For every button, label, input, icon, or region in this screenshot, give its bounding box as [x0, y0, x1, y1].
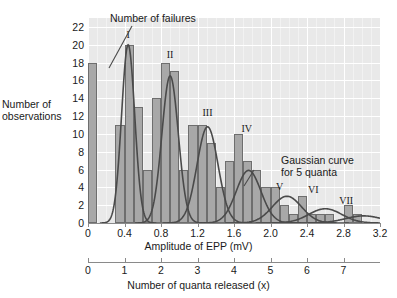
- x-tick-label: 3.2: [373, 228, 388, 239]
- histogram-bar: [216, 187, 225, 223]
- x-axis-title: Amplitude of EPP (mV): [0, 240, 397, 252]
- secondary-x-tick-label: 6: [304, 265, 310, 276]
- histogram-bar: [298, 196, 307, 223]
- histogram-bar: [225, 161, 234, 223]
- x-tick-label: 2.0: [263, 228, 278, 239]
- gaussian-annotation: Gaussian curve for 5 quanta: [281, 154, 354, 178]
- y-tick-label: 12: [56, 111, 84, 121]
- peak-label-I: I: [126, 30, 129, 40]
- histogram-bar: [207, 143, 216, 223]
- x-tick-label: 1.2: [190, 228, 205, 239]
- histogram-bar: [252, 170, 261, 223]
- histogram-bar: [234, 134, 243, 223]
- histogram-bar: [188, 125, 197, 223]
- secondary-x-axis-tick: [271, 258, 272, 263]
- y-tick-label: 22: [56, 22, 84, 32]
- peak-label-IV: IV: [241, 124, 252, 134]
- y-tick-label: 20: [56, 40, 84, 50]
- gridline-minor-vertical: [334, 18, 335, 223]
- x-tick-label: 0.8: [154, 228, 169, 239]
- histogram-bar: [344, 205, 353, 223]
- gridline-minor-vertical: [97, 18, 98, 223]
- histogram-bar: [325, 214, 334, 223]
- gridline-minor-vertical: [325, 18, 326, 223]
- y-tick-label: 10: [56, 129, 84, 139]
- y-axis-tick-labels: 0246810121416182022: [56, 18, 84, 223]
- secondary-x-axis-tick: [234, 258, 235, 263]
- histogram-bar: [280, 205, 289, 223]
- gridline-minor-vertical: [280, 18, 281, 223]
- histogram-bar: [125, 45, 134, 223]
- quantal-analysis-figure: Number of observations 02468101214161820…: [0, 0, 397, 298]
- secondary-x-axis-tick: [198, 258, 199, 263]
- histogram-bar: [115, 125, 124, 223]
- y-tick-label: 0: [56, 218, 84, 228]
- histogram-bar: [261, 187, 270, 223]
- histogram-bar: [271, 187, 280, 223]
- y-tick-label: 4: [56, 182, 84, 192]
- secondary-x-tick-label: 3: [195, 265, 201, 276]
- peak-label-VI: VI: [308, 185, 319, 195]
- histogram-bar: [353, 214, 362, 223]
- y-tick-label: 18: [56, 58, 84, 68]
- secondary-x-axis-tick: [344, 258, 345, 263]
- histogram-bar: [152, 98, 161, 223]
- histogram-bar: [243, 161, 252, 223]
- gridline-minor-vertical: [353, 18, 354, 223]
- peak-label-II: II: [167, 50, 174, 60]
- histogram-bar: [307, 214, 316, 223]
- secondary-x-axis-title: Number of quanta released (x): [0, 279, 397, 291]
- secondary-x-tick-label: 5: [268, 265, 274, 276]
- gridline-minor-vertical: [362, 18, 363, 223]
- x-tick-label: 0: [85, 228, 91, 239]
- failures-annotation: Number of failures: [110, 12, 196, 24]
- histogram-bar: [198, 125, 207, 223]
- y-tick-label: 8: [56, 147, 84, 157]
- x-tick-label: 2.8: [336, 228, 351, 239]
- gridline-vertical: [344, 18, 345, 223]
- histogram-bar: [161, 63, 170, 223]
- histogram-bar: [316, 214, 325, 223]
- secondary-x-axis-tick: [307, 258, 308, 263]
- secondary-x-axis-tick: [88, 258, 89, 263]
- x-tick-label: 0.4: [117, 228, 132, 239]
- y-tick-label: 14: [56, 93, 84, 103]
- secondary-x-axis-tick: [125, 258, 126, 263]
- histogram-bar: [88, 63, 97, 223]
- peak-label-V: V: [276, 182, 283, 192]
- plot-area: IIIIIIIVVVIVII: [88, 18, 380, 223]
- histogram-bar: [134, 107, 143, 223]
- x-tick-label: 1.6: [227, 228, 242, 239]
- histogram-bar: [179, 170, 188, 223]
- y-tick-label: 6: [56, 165, 84, 175]
- histogram-bar: [143, 170, 152, 223]
- histogram-bar: [289, 214, 298, 223]
- secondary-x-axis-tick: [161, 258, 162, 263]
- gridline-minor-vertical: [289, 18, 290, 223]
- secondary-x-tick-label: 4: [231, 265, 237, 276]
- secondary-x-tick-label: 1: [122, 265, 128, 276]
- y-tick-label: 16: [56, 75, 84, 85]
- peak-label-III: III: [203, 108, 213, 118]
- secondary-x-tick-label: 2: [158, 265, 164, 276]
- gridline-minor-vertical: [371, 18, 372, 223]
- histogram-bar: [170, 71, 179, 223]
- secondary-x-tick-label: 7: [341, 265, 347, 276]
- x-tick-label: 2.4: [300, 228, 315, 239]
- gridline-minor-vertical: [298, 18, 299, 223]
- gridline-horizontal: [88, 27, 380, 28]
- secondary-x-tick-label: 0: [85, 265, 91, 276]
- peak-label-VII: VII: [339, 196, 353, 206]
- gridline-minor-vertical: [106, 18, 107, 223]
- y-tick-label: 2: [56, 200, 84, 210]
